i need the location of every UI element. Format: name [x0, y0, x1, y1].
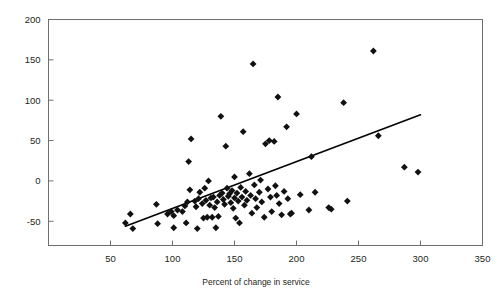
x-axis-title: Percent of change in service — [202, 277, 310, 287]
chart-canvas: -50050100150200 50100150200250300350 Per… — [0, 0, 500, 298]
y-tick-label: 0 — [35, 175, 40, 186]
y-tick-label: 200 — [25, 14, 41, 25]
x-tick-label: 50 — [105, 253, 116, 264]
x-tick-label: 100 — [165, 253, 181, 264]
y-tick-label: 50 — [30, 135, 41, 146]
x-tick-label: 150 — [227, 253, 243, 264]
y-tick-label: -50 — [27, 216, 41, 227]
x-tick-label: 300 — [413, 253, 429, 264]
x-tick-label: 350 — [475, 253, 491, 264]
y-tick-label: 100 — [25, 95, 41, 106]
x-tick-label: 200 — [289, 253, 305, 264]
scatter-chart: -50050100150200 50100150200250300350 Per… — [0, 0, 500, 298]
y-tick-label: 150 — [25, 54, 41, 65]
x-tick-label: 250 — [351, 253, 367, 264]
